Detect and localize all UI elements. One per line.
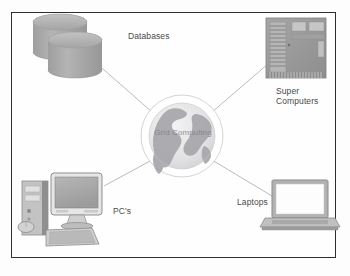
- database-cylinders-icon: [33, 14, 102, 78]
- connector-databases: [95, 62, 152, 112]
- connector-pcs: [104, 160, 152, 186]
- label-pcs: PC's: [113, 206, 131, 216]
- grid-computing-figure: Databases Super Computers Laptops PC's G…: [0, 0, 350, 276]
- label-laptops: Laptops: [237, 197, 268, 207]
- diagram-canvas: [0, 0, 350, 276]
- laptop-icon: [260, 180, 340, 230]
- connector-laptops: [212, 160, 272, 196]
- desktop-computer-icon: [18, 173, 102, 246]
- label-databases: Databases: [128, 31, 170, 41]
- label-grid-computing: Grid Computing: [148, 128, 218, 138]
- server-rack-icon: [266, 18, 326, 78]
- connector-super-computers: [212, 64, 268, 112]
- label-super-computers: Super Computers: [276, 86, 318, 106]
